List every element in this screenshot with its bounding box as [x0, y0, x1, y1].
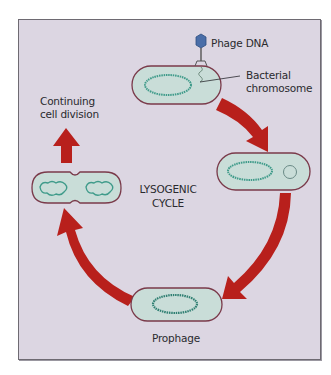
cycle-title-line2: CYCLE: [132, 197, 204, 209]
bacterium-with-circular-phage-dna: [217, 153, 310, 190]
continuing-label-line1: Continuing: [40, 95, 95, 107]
bacterial-chromosome-label-line2: chromosome: [246, 82, 312, 94]
phage-dna-label: Phage DNA: [211, 37, 268, 49]
prophage-label: Prophage: [140, 332, 212, 344]
bacterium-with-prophage: [131, 288, 222, 321]
arrow-bottom-to-left: [57, 208, 135, 306]
cycle-title-line1: LYSOGENIC: [132, 183, 204, 195]
phage-icon: [195, 34, 207, 66]
continuing-label-line2: cell division: [40, 108, 99, 120]
bacterial-chromosome-label-line1: Bacterial: [246, 69, 291, 81]
dividing-bacterium: [32, 172, 121, 203]
arrow-right-to-bottom: [222, 193, 291, 299]
arrow-up-continuing-division: [53, 128, 80, 163]
arrow-top-to-right: [216, 98, 268, 152]
